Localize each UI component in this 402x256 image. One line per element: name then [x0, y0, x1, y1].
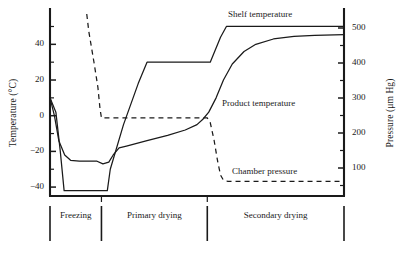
series-annotation-chamber-pressure: Chamber pressure: [232, 166, 297, 176]
right-tick-label-3: 200: [352, 127, 382, 137]
right-tick-label-0: 500: [352, 22, 382, 32]
series-annotation-product-temperature: Product temperature: [222, 98, 295, 108]
left-tick-label-4: −40: [18, 181, 44, 191]
y-axis-right-title: Pressure (μm Hg): [385, 53, 395, 173]
series-line-product-temperature: [50, 35, 344, 164]
phase-label-secondary-drying: Secondary drying: [216, 210, 336, 220]
freeze-drying-cycle-chart: Temperature (°C) Pressure (μm Hg) 40200−…: [0, 0, 402, 256]
right-tick-label-4: 100: [352, 162, 382, 172]
left-tick-label-1: 20: [18, 74, 44, 84]
series-line-chamber-pressure: [87, 14, 344, 181]
left-tick-label-0: 40: [18, 38, 44, 48]
right-tick-label-1: 400: [352, 57, 382, 67]
y-axis-left-title: Temperature (°C): [8, 53, 18, 173]
series-paths: [50, 14, 344, 191]
phase-label-primary-drying: Primary drying: [94, 210, 214, 220]
right-tick-label-2: 300: [352, 92, 382, 102]
left-tick-label-3: −20: [18, 145, 44, 155]
series-annotation-shelf-temperature: Shelf temperature: [228, 9, 292, 19]
series-line-shelf-temperature: [50, 26, 344, 190]
tick-marks: [50, 26, 344, 187]
left-tick-label-2: 0: [18, 110, 44, 120]
